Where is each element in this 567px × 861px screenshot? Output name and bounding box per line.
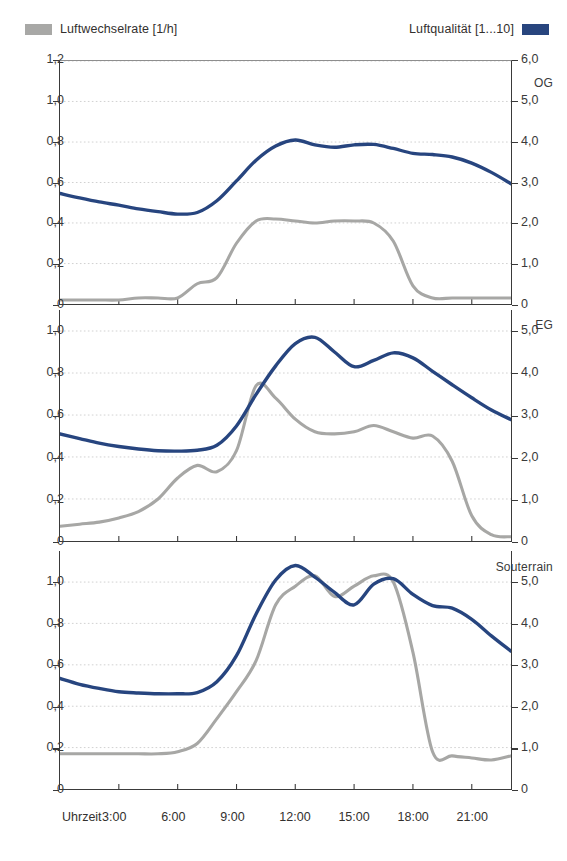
x-axis-title: Uhrzeit xyxy=(62,810,102,824)
x-axis-tick-label: 6:00 xyxy=(161,810,185,824)
y-axis-right-tick xyxy=(512,500,518,501)
plot-area-eg xyxy=(59,310,512,542)
y-axis-right-label: 3,0 xyxy=(521,407,538,421)
y-axis-left-tick xyxy=(53,373,59,374)
y-axis-left-label: 0,6 xyxy=(47,657,64,671)
y-axis-left-tick xyxy=(53,264,59,265)
blue-swatch-icon xyxy=(522,24,549,35)
y-axis-left-tick xyxy=(53,582,59,583)
y-axis-right-tick xyxy=(512,542,518,543)
y-axis-right-label: 6,0 xyxy=(521,52,538,66)
x-axis-tick-label: 12:00 xyxy=(279,810,310,824)
y-axis-right-tick xyxy=(512,458,518,459)
y-axis-right-tick xyxy=(512,142,518,143)
x-axis-tick-label: 18:00 xyxy=(398,810,429,824)
legend-label-luftwechselrate: Luftwechselrate [1/h] xyxy=(60,22,177,36)
y-axis-right-tick xyxy=(512,331,518,332)
plot-area-og xyxy=(59,60,512,305)
y-axis-right-tick xyxy=(512,223,518,224)
plot-area-souterrain xyxy=(59,551,512,790)
y-axis-right-label: 4,0 xyxy=(521,616,538,630)
y-axis-left-tick xyxy=(53,500,59,501)
y-axis-right-label: 2,0 xyxy=(521,450,538,464)
y-axis-right-label: 1,0 xyxy=(521,256,538,270)
y-axis-right-tick xyxy=(512,60,518,61)
y-axis-right-label: 1,0 xyxy=(521,492,538,506)
y-axis-right-tick xyxy=(512,790,518,791)
y-axis-left-tick xyxy=(53,748,59,749)
legend-item-luftqualitaet: Luftqualität [1...10] xyxy=(409,22,549,36)
y-axis-left-tick xyxy=(53,458,59,459)
y-axis-left-tick xyxy=(53,60,59,61)
y-axis-left-label: 1,2 xyxy=(47,52,64,66)
y-axis-right-tick xyxy=(512,373,518,374)
y-axis-right-tick xyxy=(512,707,518,708)
y-axis-left-label: 0,8 xyxy=(47,365,64,379)
y-axis-left-label: 0,2 xyxy=(47,256,64,270)
y-axis-right-label: 1,0 xyxy=(521,740,538,754)
y-axis-right-label: 0 xyxy=(521,297,528,311)
y-axis-left-tick xyxy=(53,665,59,666)
chart-legend: Luftwechselrate [1/h] Luftqualität [1...… xyxy=(0,22,567,44)
plot-svg-eg xyxy=(60,310,511,541)
y-axis-right-tick xyxy=(512,416,518,417)
y-axis-left-tick xyxy=(53,790,59,791)
y-axis-left-tick xyxy=(53,142,59,143)
line-luftwechselrate-souterrain xyxy=(60,574,511,760)
line-luftwechselrate-og xyxy=(60,218,511,300)
y-axis-right-label: 5,0 xyxy=(521,93,538,107)
y-axis-left-tick xyxy=(53,101,59,102)
line-luftqualitaet-og xyxy=(60,140,511,214)
legend-item-luftwechselrate: Luftwechselrate [1/h] xyxy=(25,22,177,36)
y-axis-left-label: 0 xyxy=(57,297,64,311)
y-axis-left-label: 0 xyxy=(57,534,64,548)
y-axis-right-label: 5,0 xyxy=(521,574,538,588)
y-axis-left-tick xyxy=(53,542,59,543)
y-axis-right-tick xyxy=(512,183,518,184)
y-axis-right-tick xyxy=(512,305,518,306)
panel-title-og: OG xyxy=(534,76,553,90)
y-axis-right-label: 2,0 xyxy=(521,215,538,229)
y-axis-left-label: 0 xyxy=(57,782,64,796)
y-axis-left-label: 0,6 xyxy=(47,407,64,421)
y-axis-right-label: 0 xyxy=(521,534,528,548)
y-axis-right-label: 4,0 xyxy=(521,134,538,148)
y-axis-right-label: 3,0 xyxy=(521,175,538,189)
y-axis-right-label: 0 xyxy=(521,782,528,796)
y-axis-left-label: 1,0 xyxy=(47,574,64,588)
chart-root: Luftwechselrate [1/h] Luftqualität [1...… xyxy=(0,0,567,861)
y-axis-left-label: 1,0 xyxy=(47,323,64,337)
y-axis-right-label: 5,0 xyxy=(521,323,538,337)
x-axis-tick-label: 9:00 xyxy=(220,810,244,824)
grey-swatch-icon xyxy=(25,24,52,35)
y-axis-left-label: 0,6 xyxy=(47,175,64,189)
x-axis-tick-label: 15:00 xyxy=(338,810,369,824)
y-axis-left-tick xyxy=(53,624,59,625)
y-axis-right-tick xyxy=(512,748,518,749)
y-axis-right-tick xyxy=(512,665,518,666)
panel-title-souterrain: Souterrain xyxy=(496,560,553,574)
y-axis-left-label: 0,8 xyxy=(47,134,64,148)
y-axis-right-tick xyxy=(512,264,518,265)
line-luftwechselrate-eg xyxy=(60,383,511,537)
legend-label-luftqualitaet: Luftqualität [1...10] xyxy=(409,22,514,36)
y-axis-right-label: 2,0 xyxy=(521,699,538,713)
y-axis-right-tick xyxy=(512,582,518,583)
line-luftqualitaet-eg xyxy=(60,337,511,451)
y-axis-left-tick xyxy=(53,707,59,708)
y-axis-left-tick xyxy=(53,183,59,184)
y-axis-left-label: 0,4 xyxy=(47,699,64,713)
y-axis-left-tick xyxy=(53,223,59,224)
x-axis-tick-label: 3:00 xyxy=(102,810,126,824)
y-axis-left-tick xyxy=(53,416,59,417)
line-luftqualitaet-souterrain xyxy=(60,565,511,693)
x-axis-tick-label: 21:00 xyxy=(457,810,488,824)
y-axis-right-label: 3,0 xyxy=(521,657,538,671)
plot-svg-souterrain xyxy=(60,551,511,789)
plot-svg-og xyxy=(60,61,511,304)
y-axis-right-label: 4,0 xyxy=(521,365,538,379)
y-axis-left-tick xyxy=(53,305,59,306)
y-axis-left-tick xyxy=(53,331,59,332)
y-axis-right-tick xyxy=(512,101,518,102)
y-axis-right-tick xyxy=(512,624,518,625)
